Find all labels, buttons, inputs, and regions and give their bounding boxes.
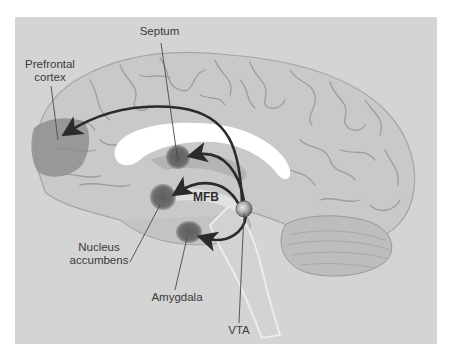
brainstem bbox=[210, 205, 280, 338]
label-nucleus-line1: Nucleus bbox=[67, 241, 131, 254]
label-vta: VTA bbox=[224, 324, 254, 337]
label-nucleus-accumbens: Nucleus accumbens bbox=[67, 241, 131, 267]
nucleus-accumbens-region bbox=[150, 184, 176, 210]
septum-region bbox=[166, 145, 190, 169]
amygdala-region bbox=[176, 221, 202, 243]
label-septum: Septum bbox=[136, 25, 183, 38]
label-prefrontal-line1: Prefrontal bbox=[22, 58, 78, 71]
label-prefrontal-line2: cortex bbox=[22, 71, 78, 84]
leader-amygdala bbox=[175, 238, 187, 290]
label-mfb: MFB bbox=[191, 191, 221, 204]
label-prefrontal-cortex: Prefrontal cortex bbox=[22, 58, 78, 84]
label-nucleus-line2: accumbens bbox=[67, 254, 131, 267]
diagram-panel: Septum Prefrontal cortex MFB Nucleus acc… bbox=[15, 17, 437, 344]
label-amygdala: Amygdala bbox=[149, 291, 205, 304]
brain-illustration bbox=[15, 17, 437, 344]
